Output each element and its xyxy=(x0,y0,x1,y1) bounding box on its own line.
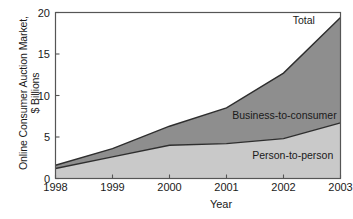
series-annotation-business-to-consumer: Business-to-consumer xyxy=(232,109,337,121)
x-tick-label: 2002 xyxy=(271,181,295,193)
series-annotation-person-to-person: Person-to-person xyxy=(252,149,333,161)
x-tick-label: 2003 xyxy=(328,181,352,193)
x-tick-label: 1999 xyxy=(100,181,124,193)
x-tick-label: 1998 xyxy=(43,181,67,193)
x-axis-title-text: Year xyxy=(210,198,232,210)
x-axis-title: Year xyxy=(0,198,352,210)
x-tick-label: 2000 xyxy=(157,181,181,193)
series-annotation-total: Total xyxy=(293,14,315,26)
x-tick-label: 2001 xyxy=(214,181,238,193)
x-axis-tick-labels: 199819992000200120022003 xyxy=(0,181,352,197)
